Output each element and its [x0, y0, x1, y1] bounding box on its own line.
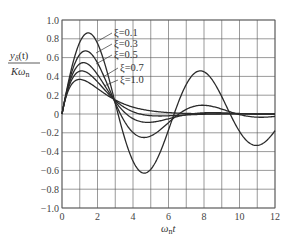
- y-tick-label: 0.2: [47, 90, 60, 101]
- y-tick-label: 0.8: [47, 33, 60, 44]
- leader-line: [98, 33, 112, 41]
- y-tick-label: −0.2: [41, 127, 59, 138]
- leader-line: [103, 68, 118, 77]
- y-label-numerator: yδ(t): [9, 50, 29, 63]
- x-tick-label: 12: [270, 211, 280, 222]
- legend-label: ξ=0.7: [120, 62, 144, 74]
- x-tick-label: 6: [166, 211, 171, 222]
- y-tick-label: 0.4: [47, 71, 60, 82]
- legend-label: ξ=0.5: [114, 49, 138, 61]
- y-axis-ticks: 1.00.80.60.40.20−0.2−0.4−0.6−0.8−1.0: [41, 15, 59, 214]
- y-tick-label: 0.6: [47, 52, 60, 63]
- y-tick-label: 1.0: [47, 15, 60, 26]
- x-axis-label: ωnt: [161, 223, 176, 236]
- x-axis-ticks: 024681012: [60, 211, 281, 222]
- x-tick-label: 2: [95, 211, 100, 222]
- y-tick-label: −0.8: [41, 184, 59, 195]
- x-tick-label: 4: [131, 211, 136, 222]
- y-tick-label: 0: [54, 109, 59, 120]
- impulse-response-chart: 1.00.80.60.40.20−0.2−0.4−0.6−0.8−1.0 024…: [0, 0, 294, 245]
- x-tick-label: 8: [202, 211, 207, 222]
- y-tick-label: −0.6: [41, 165, 59, 176]
- y-label-denominator: Kωn: [10, 66, 29, 79]
- y-tick-label: −1.0: [41, 203, 59, 214]
- y-axis-label: yδ(t) Kωn: [8, 50, 40, 79]
- legend-label: ξ=1.0: [120, 74, 144, 86]
- x-tick-label: 10: [235, 211, 245, 222]
- x-tick-label: 0: [60, 211, 65, 222]
- y-tick-label: −0.4: [41, 146, 59, 157]
